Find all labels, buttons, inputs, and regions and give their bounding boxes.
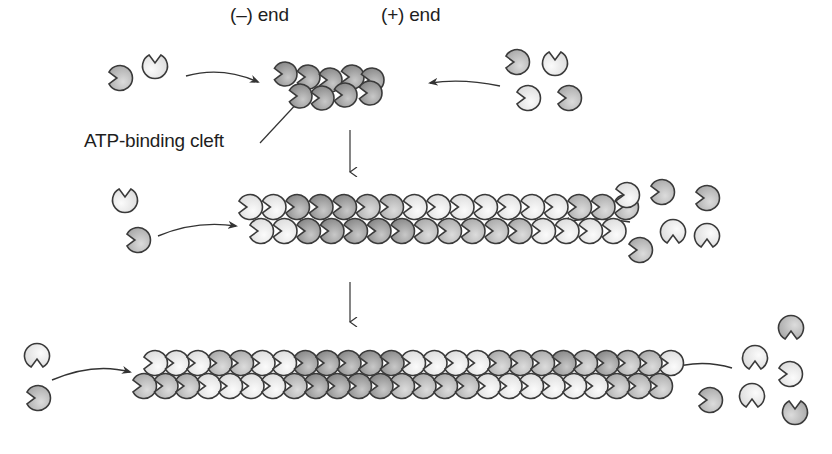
actin-monomer [262,374,286,399]
nucleus-filament [274,62,384,110]
actin-monomer [531,351,555,376]
actin-monomer [356,195,380,220]
actin-monomer [638,351,662,376]
actin-monomer [359,351,383,376]
actin-monomer [520,374,544,399]
minus-end-label: (–) end [230,4,289,26]
actin-monomer [427,195,451,220]
actin-monomer [649,374,673,399]
free-actin-monomer [696,186,720,211]
actin-monomer [568,195,592,220]
free-actin-monomer [779,362,803,387]
actin-monomer [359,81,382,105]
arrow-in-left-2 [158,224,236,236]
nucleus-free-right-monomers [506,50,582,111]
atp-binding-cleft-label: ATP-binding cleft [84,130,224,152]
actin-monomer [309,195,333,220]
actin-monomer [602,219,626,244]
actin-monomer [297,219,321,244]
plus-end-label: (+) end [381,4,440,26]
actin-monomer [334,83,357,107]
actin-monomer [239,195,263,220]
actin-monomer [391,219,415,244]
actin-monomer [144,351,168,376]
actin-monomer [455,374,479,399]
actin-monomer [273,219,297,244]
actin-monomer [273,351,297,376]
actin-monomer [579,219,603,244]
filament-3 [133,351,684,399]
actin-monomer [283,374,307,399]
actin-monomer [412,374,436,399]
actin-monomer [498,374,522,399]
free-actin-monomer [127,228,151,253]
actin-monomer [627,374,651,399]
free-actin-monomer [629,238,653,263]
actin-monomer [251,351,275,376]
actin-monomer [606,374,630,399]
free-actin-monomer [695,224,720,248]
actin-monomer [497,195,521,220]
free-actin-monomer [27,386,51,411]
actin-monomer [563,374,587,399]
actin-monomer [316,351,340,376]
actin-monomer [289,84,312,108]
filament-2 [239,195,639,244]
actin-monomer [154,374,178,399]
actin-monomer [187,351,211,376]
actin-monomer [369,374,393,399]
free-actin-monomer [25,344,50,368]
actin-monomer [274,62,297,86]
actin-monomer [509,351,533,376]
elongating-free-left-monomers [113,189,151,253]
actin-monomer [380,351,404,376]
arrow-in-left-3 [52,368,130,380]
actin-monomer [294,351,318,376]
actin-monomer [574,351,598,376]
actin-monomer [434,374,458,399]
actin-monomer [461,219,485,244]
free-actin-monomer [779,316,804,340]
actin-monomer [541,374,565,399]
actin-monomer [230,351,254,376]
free-actin-monomer [109,66,133,91]
actin-monomer [660,351,684,376]
actin-monomer [591,195,615,220]
arrow-in-left-1 [186,72,258,82]
actin-monomer [305,374,329,399]
actin-monomer [445,351,469,376]
actin-monomer [584,374,608,399]
free-actin-monomer [740,384,765,408]
actin-monomer [450,195,474,220]
actin-monomer [133,374,157,399]
actin-monomer [485,219,509,244]
actin-monomer [326,374,350,399]
free-actin-monomer [543,52,568,76]
free-actin-monomer [783,401,808,425]
actin-monomer [595,351,619,376]
actin-monomer [423,351,447,376]
free-actin-monomer [506,50,530,75]
nucleus-free-left-monomers [109,55,168,91]
free-actin-monomer [699,388,723,413]
free-actin-monomer [113,189,138,213]
actin-monomer [438,219,462,244]
actin-monomer [286,195,310,220]
actin-monomer [250,219,274,244]
actin-monomer [521,195,545,220]
free-actin-monomer [143,55,168,79]
actin-polymerization-diagram [0,0,832,454]
filament-free-right-monomers [699,316,808,425]
actin-monomer [219,374,243,399]
actin-monomer [552,351,576,376]
actin-monomer [488,351,512,376]
actin-monomer [311,86,334,110]
actin-monomer [240,374,264,399]
actin-monomer [532,219,556,244]
actin-monomer [380,195,404,220]
actin-monomer [367,219,391,244]
actin-monomer [348,374,372,399]
actin-monomer [414,219,438,244]
actin-monomer [262,195,286,220]
free-actin-monomer [517,86,541,111]
